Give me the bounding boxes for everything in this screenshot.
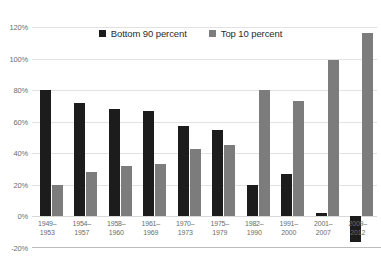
bar xyxy=(190,149,201,217)
x-axis-tick-label-line: 1958– xyxy=(99,220,134,229)
x-axis-tick-label-line: 1973 xyxy=(168,229,203,238)
x-axis-tick-label: 1970–1973 xyxy=(168,220,203,237)
x-axis-tick-label-line: 1991– xyxy=(272,220,307,229)
bar xyxy=(247,185,258,217)
x-axis-tick-label-line: 1970– xyxy=(168,220,203,229)
x-axis-tick-label-line: 2009– xyxy=(341,220,376,229)
bar xyxy=(293,101,304,216)
y-axis-tick-label: -20% xyxy=(0,244,28,253)
bar-group xyxy=(247,27,270,248)
x-axis-tick-label-line: 1969 xyxy=(134,229,169,238)
x-axis-tick-label-line: 1990 xyxy=(237,229,272,238)
bar-group xyxy=(74,27,97,248)
x-axis-tick-label: 1982–1990 xyxy=(237,220,272,237)
bar xyxy=(74,103,85,217)
x-axis-tick-label-line: 1953 xyxy=(30,229,65,238)
x-axis-tick-label-line: 1957 xyxy=(65,229,100,238)
y-axis-tick-label: 60% xyxy=(0,118,28,127)
x-axis-tick-label: 2009–2012 xyxy=(341,220,376,237)
bar xyxy=(259,90,270,216)
y-axis-tick-label: 0% xyxy=(0,212,28,221)
y-axis-tick-label: 120% xyxy=(0,23,28,32)
y-axis-tick-label: 80% xyxy=(0,86,28,95)
x-axis-tick-label: 1954–1957 xyxy=(65,220,100,237)
x-axis-tick-label: 1991–2000 xyxy=(272,220,307,237)
bar xyxy=(143,111,154,217)
x-axis-tick-label-line: 1975– xyxy=(203,220,238,229)
x-axis-tick-label-line: 1954– xyxy=(65,220,100,229)
x-axis-tick-label: 2001–2007 xyxy=(306,220,341,237)
x-axis-tick-label: 1961–1969 xyxy=(134,220,169,237)
bar xyxy=(281,174,292,217)
bar xyxy=(86,172,97,216)
x-axis-tick-label-line: 1960 xyxy=(99,229,134,238)
y-axis-tick-label: 40% xyxy=(0,149,28,158)
bar xyxy=(362,33,373,216)
x-axis-tick-label-line: 2012 xyxy=(341,229,376,238)
x-axis-tick-label: 1975–1979 xyxy=(203,220,238,237)
x-axis-tick-label: 1958–1960 xyxy=(99,220,134,237)
income-growth-share-bar-chart: Bottom 90 percent Top 10 percent -20%0%2… xyxy=(0,0,381,261)
bar xyxy=(121,166,132,217)
bar xyxy=(224,145,235,216)
x-axis-tick-label-line: 2000 xyxy=(272,229,307,238)
bar-group xyxy=(212,27,235,248)
bar xyxy=(328,60,339,216)
bar-group xyxy=(40,27,63,248)
x-axis-tick-label-line: 1982– xyxy=(237,220,272,229)
bar xyxy=(40,90,51,216)
x-axis-tick-label-line: 2001– xyxy=(306,220,341,229)
x-axis-tick-label-line: 1979 xyxy=(203,229,238,238)
bar xyxy=(52,185,63,217)
bar-group xyxy=(281,27,304,248)
plot-area xyxy=(32,27,377,248)
x-axis-tick-label-line: 1949– xyxy=(30,220,65,229)
bar-group xyxy=(350,27,373,248)
y-axis-tick-label: 20% xyxy=(0,181,28,190)
x-axis-tick-label: 1949–1953 xyxy=(30,220,65,237)
bar xyxy=(316,213,327,216)
y-axis-tick-label: 100% xyxy=(0,55,28,64)
x-axis-tick-label-line: 1961– xyxy=(134,220,169,229)
bottom-axis-rule xyxy=(32,247,381,248)
bar xyxy=(109,109,120,216)
bar xyxy=(178,126,189,216)
bar xyxy=(155,164,166,216)
x-axis-tick-label-line: 2007 xyxy=(306,229,341,238)
bar-group xyxy=(143,27,166,248)
bar-group xyxy=(178,27,201,248)
bar-group xyxy=(109,27,132,248)
bar-group xyxy=(316,27,339,248)
bar xyxy=(212,130,223,217)
